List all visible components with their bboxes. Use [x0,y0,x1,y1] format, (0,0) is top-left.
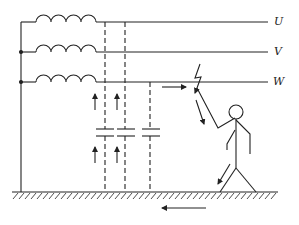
contact-spark-icon [195,64,201,88]
phase-label-u: U [274,16,283,27]
ungrounded-system-shock-diagram [0,0,299,225]
capacitors [96,129,160,136]
current-arrow-arm [196,100,204,124]
person-arm-raised [197,88,235,128]
person-head [229,105,243,119]
person-figure [220,105,256,192]
winding-w [21,75,96,82]
current-arrow-leg [218,164,230,184]
ground-hatching [13,193,276,199]
capacitance-leads [105,22,150,192]
winding-v [21,45,96,52]
contact-arrow [195,88,197,93]
phase-label-w: W [273,76,284,87]
phase-label-v: V [274,46,282,57]
winding-u [21,15,96,22]
